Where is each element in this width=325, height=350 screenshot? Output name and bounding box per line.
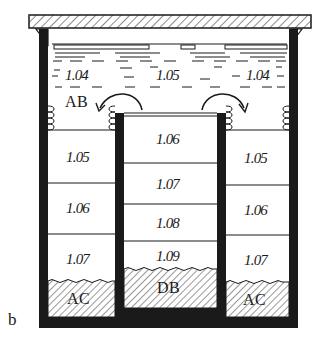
right-layer-1: 1.05	[244, 150, 268, 166]
top-value-center: 1.05	[156, 67, 180, 83]
center-layer-1: 1.06	[156, 131, 180, 147]
top-value-left: 1.04	[65, 67, 89, 83]
center-layer-4: 1.09	[156, 248, 180, 264]
left-layer-3: 1.07	[66, 251, 91, 267]
label-ab: AB	[65, 93, 88, 110]
label-ac-left: AC	[67, 290, 90, 307]
center-layer-3: 1.08	[156, 215, 180, 231]
panel-label: b	[8, 310, 17, 329]
right-layer-2: 1.06	[244, 202, 268, 218]
coil-right-inner	[226, 106, 232, 130]
coil-left-inner	[109, 106, 115, 130]
left-layer-2: 1.06	[66, 200, 90, 216]
label-ac-right: AC	[243, 291, 266, 308]
arrow-right-icon	[202, 94, 248, 112]
top-water-surface	[52, 44, 287, 57]
arrow-left-icon	[96, 94, 142, 111]
roof	[29, 15, 311, 45]
top-value-right: 1.04	[246, 67, 270, 83]
left-layer-1: 1.05	[66, 149, 90, 165]
hive-diagram: 1.04 1.05 1.04 AB 1.05 1.06 1.07 AC	[0, 0, 325, 350]
coil-left-outer	[48, 106, 54, 130]
right-layer-3: 1.07	[244, 252, 269, 268]
label-db: DB	[157, 279, 180, 296]
coil-right-outer	[283, 106, 289, 130]
center-layer-2: 1.07	[156, 176, 181, 192]
